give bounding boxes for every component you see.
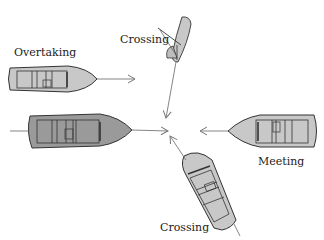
crossing-top-arrow	[166, 62, 176, 118]
crossing-boat	[182, 153, 236, 230]
meeting-boat	[228, 115, 317, 147]
label-overtaking: Overtaking	[14, 46, 76, 59]
overtaking-boat	[9, 66, 98, 92]
label-crossing-top: Crossing	[120, 33, 169, 46]
crossing-bottom-wake	[234, 224, 240, 236]
label-crossing-bottom: Crossing	[160, 221, 209, 234]
crossing-bottom-arrow	[170, 136, 186, 160]
encounter-diagram: Overtaking Crossing Meeting Crossing	[0, 0, 324, 240]
label-meeting: Meeting	[258, 155, 304, 168]
own-boat	[28, 114, 132, 148]
own-heading-arrow	[132, 130, 168, 131]
